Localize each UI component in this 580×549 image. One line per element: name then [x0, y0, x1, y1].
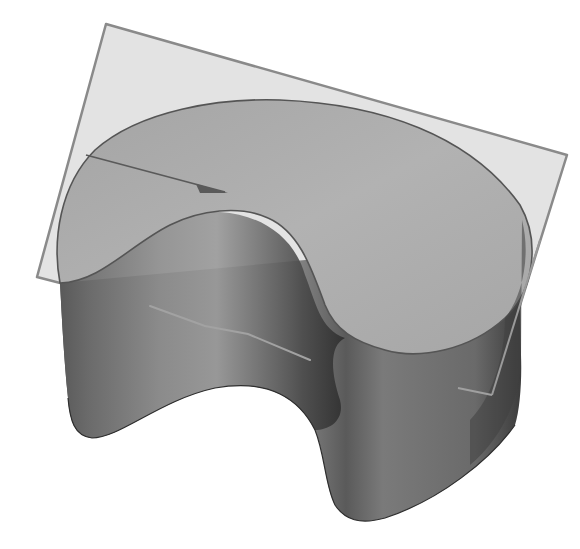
cad-model-render — [0, 0, 580, 549]
cad-viewport — [0, 0, 580, 549]
